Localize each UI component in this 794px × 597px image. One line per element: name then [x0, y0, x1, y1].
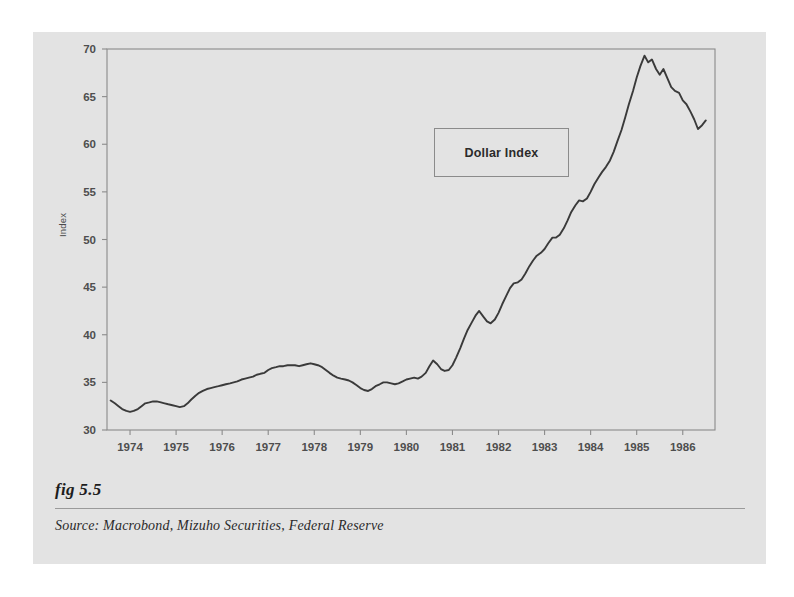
figure-panel: Index 303540455055606570 197419751976197… [33, 32, 766, 564]
x-tick-label: 1984 [578, 441, 604, 453]
y-tick-label: 50 [83, 234, 96, 246]
y-tick-label: 40 [83, 329, 96, 341]
x-tick-label: 1977 [255, 441, 281, 453]
y-tick-label: 35 [83, 376, 96, 388]
y-tick-label: 30 [83, 424, 96, 436]
x-tick-label: 1982 [486, 441, 512, 453]
x-axis-ticks: 1974197519761977197819791980198119821983… [117, 430, 695, 453]
x-tick-label: 1983 [532, 441, 558, 453]
legend-label-dollar-index: Dollar Index [465, 146, 539, 160]
y-tick-label: 70 [83, 43, 96, 55]
x-tick-label: 1976 [209, 441, 235, 453]
x-tick-label: 1981 [440, 441, 466, 453]
figure-number: fig 5.5 [55, 480, 101, 500]
x-tick-label: 1985 [624, 441, 650, 453]
chart-area: Index 303540455055606570 197419751976197… [33, 32, 766, 464]
line-chart-svg: 303540455055606570 197419751976197719781… [33, 32, 766, 464]
caption-block: fig 5.5 Source: Macrobond, Mizuho Securi… [33, 470, 766, 564]
y-tick-label: 55 [83, 186, 96, 198]
y-tick-label: 45 [83, 281, 96, 293]
x-tick-label: 1986 [670, 441, 696, 453]
series-line-dollar-index [111, 56, 706, 412]
x-tick-label: 1979 [348, 441, 374, 453]
legend-box: Dollar Index [434, 128, 569, 177]
x-tick-label: 1978 [301, 441, 327, 453]
x-tick-label: 1974 [117, 441, 143, 453]
x-tick-label: 1975 [163, 441, 189, 453]
x-tick-label: 1980 [394, 441, 420, 453]
y-tick-label: 65 [83, 91, 96, 103]
plot-frame [107, 49, 715, 430]
y-axis-ticks: 303540455055606570 [83, 43, 107, 436]
y-tick-label: 60 [83, 138, 96, 150]
figure-page: Index 303540455055606570 197419751976197… [0, 0, 794, 597]
caption-divider [55, 508, 745, 509]
figure-source: Source: Macrobond, Mizuho Securities, Fe… [55, 518, 384, 534]
